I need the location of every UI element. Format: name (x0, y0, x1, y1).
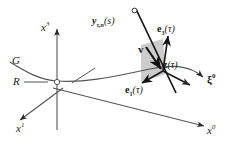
geodesic-label-y-arg: (s) (104, 15, 115, 26)
axis-label-x0-sup: 0 (212, 123, 215, 130)
endpoint-marker (132, 8, 137, 13)
point-label-z-arg: (τ) (167, 59, 177, 70)
axis-label-x3: x3 (41, 21, 49, 33)
point-label-z: z(τ) (163, 60, 178, 70)
tetrad-label-e1-arg: (τ) (133, 84, 143, 95)
diagram-canvas (0, 0, 231, 145)
geodesic-label-y-sub: τ,n (96, 22, 104, 28)
axis-label-xi0-sup: 0 (212, 72, 215, 79)
tetrad-label-e1: e1(τ) (125, 85, 143, 97)
origin-marker (54, 79, 59, 84)
curve-label-G: G (12, 55, 20, 66)
tetrad-label-e3-arg: (τ) (165, 23, 175, 34)
geodesic-label-y: yτ,n(s) (92, 16, 115, 28)
velocity-label-v: v (138, 44, 144, 55)
frame-label-R: R (13, 76, 20, 87)
axis-label-x1-sup: 1 (21, 121, 24, 128)
tetrad-label-e3: e3(τ) (157, 24, 175, 36)
axis-label-xi0: ξ0 (207, 73, 215, 85)
axis-label-x0: x0 (207, 124, 215, 136)
axis-label-x1: x1 (16, 122, 24, 134)
e2-vector (163, 71, 190, 85)
axis-label-x3-sup: 3 (46, 20, 49, 27)
figure-container: x3 x1 x0 ξ0 G R yτ,n(s) e3(τ) e1(τ) z(τ)… (0, 0, 231, 145)
